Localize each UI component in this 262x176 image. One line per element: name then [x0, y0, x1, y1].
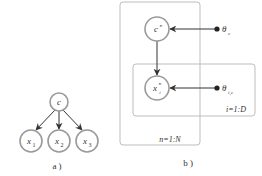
param-dot-icon: [214, 85, 219, 90]
node-x1-subscript: 1: [33, 142, 36, 148]
diagram-canvas: c x 1 x 2 x 3 a ) n=1:N i=1:D c: [0, 0, 262, 176]
node-x1-label: x: [26, 136, 31, 146]
node-x2-label: x: [54, 136, 59, 146]
edge-c-x1: [36, 110, 55, 130]
node-cn: c n: [145, 17, 169, 41]
node-x3: x 3: [76, 130, 98, 152]
node-x3-subscript: 3: [89, 142, 92, 148]
panel-b: n=1:N i=1:D c n x i n θ c θ i,c b ): [120, 2, 255, 168]
plate-outer-label: n=1:N: [159, 135, 181, 144]
node-cn-label: c: [154, 24, 158, 34]
node-x3-label: x: [82, 136, 87, 146]
param-theta-c-label: θ: [222, 24, 227, 34]
node-xin-label: x: [152, 83, 157, 93]
panel-a: c x 1 x 2 x 3 a ): [20, 93, 98, 171]
param-theta-ic-label: θ: [222, 83, 227, 93]
edge-c-x3: [63, 110, 82, 130]
node-xin: x i n: [145, 76, 169, 100]
plate-inner-label: i=1:D: [226, 105, 246, 114]
node-c: c: [50, 93, 68, 111]
node-x2-subscript: 2: [61, 142, 64, 148]
param-theta-c: θ c: [214, 24, 231, 36]
panel-a-caption: a ): [52, 161, 61, 171]
param-dot-icon: [214, 26, 219, 31]
param-theta-ic-subscript: i,c: [228, 90, 234, 96]
param-theta-c-subscript: c: [228, 31, 231, 36]
panel-b-caption: b ): [183, 158, 193, 168]
node-x1: x 1: [20, 130, 42, 152]
node-c-label: c: [57, 97, 61, 107]
node-x2: x 2: [48, 130, 70, 152]
param-theta-ic: θ i,c: [214, 83, 233, 96]
